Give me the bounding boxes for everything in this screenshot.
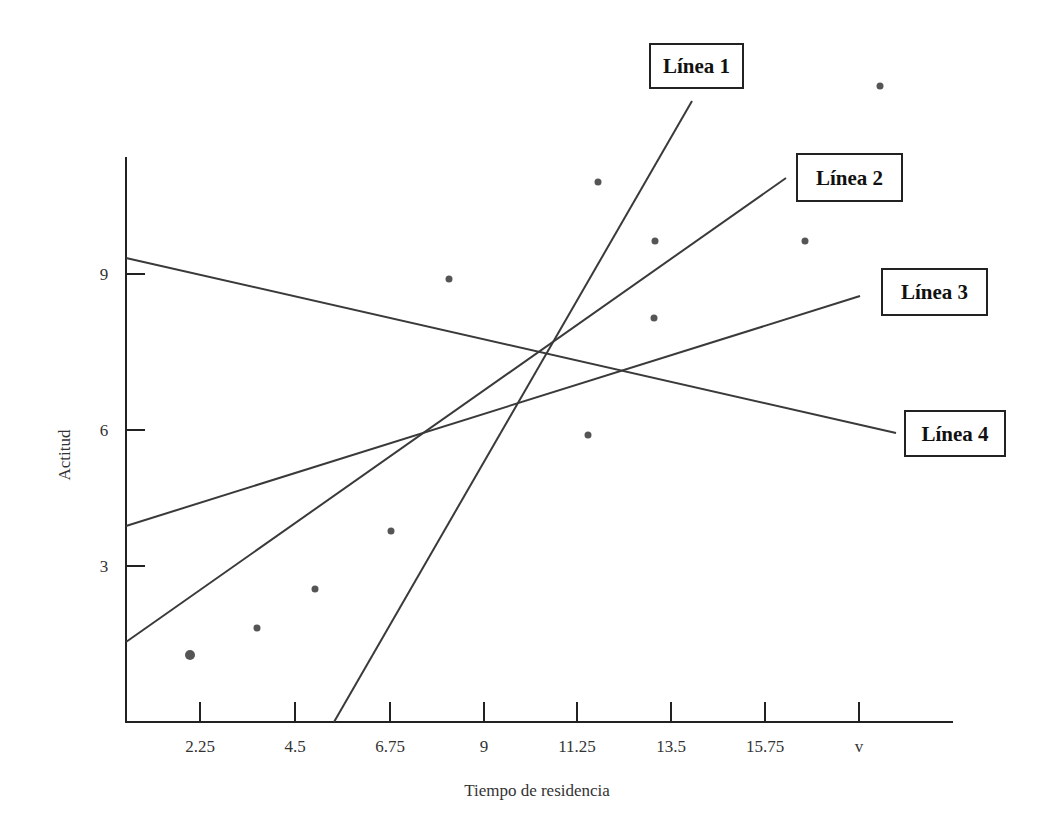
data-point [585, 432, 592, 439]
line-2 [126, 178, 786, 642]
data-point [446, 276, 453, 283]
line-4 [126, 258, 896, 433]
scatter-chart: 2.25 4.5 6.75 9 11.25 13.5 15.75 v 9 6 3… [0, 0, 1056, 831]
y-tick-label: 3 [100, 557, 109, 576]
legend-label: Línea 2 [816, 166, 883, 190]
data-points [185, 83, 884, 661]
line-1 [334, 101, 692, 722]
legend-label: Línea 3 [901, 280, 968, 304]
x-tick-label: 4.5 [284, 737, 305, 756]
x-tick-labels: 2.25 4.5 6.75 9 11.25 13.5 15.75 v [185, 737, 864, 756]
legend-label: Línea 1 [663, 54, 730, 78]
y-tick-label: 6 [100, 421, 109, 440]
y-axis-title: Actitud [55, 429, 74, 480]
y-tick-labels: 9 6 3 [100, 265, 109, 576]
line-3 [126, 296, 860, 526]
data-point [595, 179, 602, 186]
x-axis-title: Tiempo de residencia [464, 781, 610, 800]
x-tick-label: 9 [480, 737, 489, 756]
x-tick-label: 15.75 [746, 737, 784, 756]
data-point [388, 528, 395, 535]
x-tick-label: v [855, 737, 864, 756]
x-tick-label: 11.25 [558, 737, 596, 756]
data-point [652, 238, 659, 245]
legend-line-4: Línea 4 [905, 411, 1005, 456]
x-ticks [200, 702, 859, 722]
axes [125, 157, 953, 722]
legend-line-2: Línea 2 [797, 154, 902, 201]
data-point [802, 238, 809, 245]
legend-line-3: Línea 3 [882, 269, 987, 315]
x-tick-label: 2.25 [185, 737, 215, 756]
data-point [877, 83, 884, 90]
legend-label: Línea 4 [921, 422, 989, 446]
x-tick-label: 13.5 [656, 737, 686, 756]
legend-line-1: Línea 1 [650, 44, 743, 88]
lines [126, 101, 896, 722]
x-tick-label: 6.75 [375, 737, 405, 756]
y-tick-label: 9 [100, 265, 109, 284]
data-point [312, 586, 319, 593]
data-point [185, 650, 195, 660]
data-point [254, 625, 261, 632]
data-point [651, 315, 658, 322]
